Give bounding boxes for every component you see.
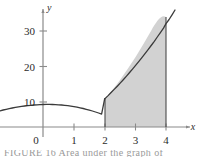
x-tick-label-4: 4 bbox=[163, 134, 169, 146]
x-tick-label-0: 0 bbox=[33, 134, 39, 146]
area-under-curve-chart: 30 20 10 0 1 2 3 4 y x bbox=[0, 0, 201, 157]
x-axis-arrowhead bbox=[186, 125, 190, 128]
shaded-area-region bbox=[105, 16, 166, 127]
x-axis-label: x bbox=[190, 121, 196, 132]
y-tick-label-30: 30 bbox=[24, 25, 36, 37]
y-axis-arrowhead bbox=[41, 9, 44, 13]
figure-caption: FIGURE 16 Area under the graph of bbox=[4, 150, 163, 157]
figure-container: 30 20 10 0 1 2 3 4 y x FIGURE 16 Area un… bbox=[0, 0, 201, 157]
x-tick-label-1: 1 bbox=[71, 134, 77, 146]
figure-caption-strip: FIGURE 16 Area under the graph of bbox=[0, 150, 201, 157]
x-tick-label-3: 3 bbox=[133, 134, 139, 146]
y-axis-label: y bbox=[46, 2, 52, 13]
x-tick-label-2: 2 bbox=[102, 134, 108, 146]
y-tick-label-20: 20 bbox=[24, 61, 36, 73]
y-tick-label-10: 10 bbox=[24, 96, 36, 108]
